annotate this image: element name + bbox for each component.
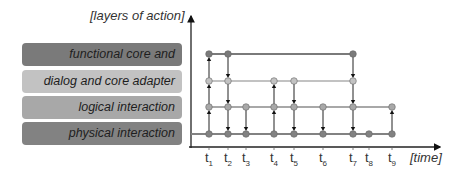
event-dot (225, 51, 232, 58)
event-dot (225, 104, 232, 111)
time-tick-label: t1 (205, 150, 213, 168)
event-dot (291, 104, 298, 111)
event-dot (271, 131, 278, 138)
timeline-diagram (0, 0, 460, 172)
arrowhead-icon (292, 127, 296, 131)
event-dot (350, 104, 357, 111)
arrowhead-icon (272, 84, 276, 88)
event-dot (271, 78, 278, 85)
event-dot (206, 104, 213, 111)
event-arrows (207, 57, 394, 131)
arrowhead-icon (272, 110, 276, 114)
time-tick-label: t6 (319, 150, 327, 168)
time-tick-label: t4 (270, 150, 278, 168)
event-dot (206, 51, 213, 58)
arrowhead-icon (351, 127, 355, 131)
event-dot (320, 104, 327, 111)
arrowhead-icon (390, 110, 394, 114)
layer-lines (191, 54, 392, 134)
event-dot (320, 131, 327, 138)
x-axis-title: [time] (410, 150, 442, 165)
time-tick-label: t7 (349, 150, 357, 168)
time-tick-label: t3 (242, 150, 250, 168)
event-dot (350, 51, 357, 58)
event-dot (350, 78, 357, 85)
event-dot (389, 104, 396, 111)
time-tick-label: t2 (224, 150, 232, 168)
event-dots (206, 51, 396, 138)
event-dot (291, 131, 298, 138)
event-dot (366, 131, 373, 138)
time-tick-label: t8 (365, 150, 373, 168)
event-dot (243, 104, 250, 111)
event-dot (206, 131, 213, 138)
event-dot (225, 78, 232, 85)
time-tick-label: t5 (290, 150, 298, 168)
event-dot (271, 104, 278, 111)
arrowhead-icon (321, 127, 325, 131)
arrowhead-icon (207, 110, 211, 114)
event-dot (206, 78, 213, 85)
arrowhead-icon (226, 127, 230, 131)
event-dot (350, 131, 357, 138)
arrowhead-icon (244, 127, 248, 131)
time-tick-label: t9 (388, 150, 396, 168)
event-dot (389, 131, 396, 138)
event-dot (243, 131, 250, 138)
arrowhead-icon (207, 84, 211, 88)
event-dot (225, 131, 232, 138)
event-dot (291, 78, 298, 85)
